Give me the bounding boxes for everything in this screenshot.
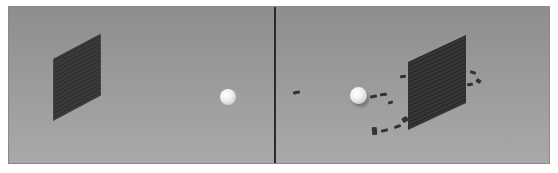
ball <box>350 87 367 104</box>
scattered-brick <box>467 83 473 87</box>
scattered-brick <box>394 124 402 129</box>
wall-hole <box>490 79 498 85</box>
panel-after-impact <box>276 7 549 163</box>
brick-wall-intact <box>53 33 101 121</box>
scattered-brick <box>372 127 378 135</box>
scattered-brick <box>381 128 389 133</box>
scattered-brick <box>400 75 406 79</box>
scattered-brick <box>475 78 481 84</box>
scattered-brick <box>388 100 394 104</box>
scattered-brick <box>370 94 377 98</box>
scattered-brick <box>293 90 300 94</box>
panel-before-impact <box>9 7 274 163</box>
render-comparison-figure <box>8 6 550 164</box>
brick-wall-broken <box>408 35 466 130</box>
scattered-brick <box>380 93 387 97</box>
scattered-brick <box>470 70 477 75</box>
ball <box>220 89 236 105</box>
